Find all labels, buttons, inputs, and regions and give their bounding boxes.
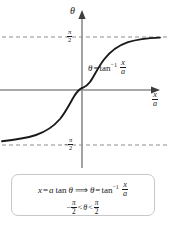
formula-line-1: x=atanθ⟹θ=tan−1 x a [12, 182, 154, 200]
upper-tick-label: π 2 [67, 30, 72, 44]
formula-a: a [49, 185, 54, 195]
inequality-right-denominator: 2 [94, 208, 100, 215]
vertical-axis-label: θ [70, 6, 75, 16]
curve-equation-arg-denominator: a [120, 68, 126, 76]
formula-tan: tan [54, 185, 67, 195]
curve-equation-equals: = [92, 63, 99, 73]
horizontal-axis-label: x a [152, 92, 158, 110]
curve-equation-label: θ=tan−1 x a [88, 60, 126, 78]
inequality-left-denominator: 2 [71, 208, 77, 215]
arctangent-figure: θ x a π 2 − π 2 θ=tan−1 x a x=atanθ⟹θ=ta… [0, 0, 169, 225]
formula-implies-arrow: ⟹ [73, 184, 90, 195]
formula-equals-1: = [42, 185, 49, 195]
formula-line-2: − π 2 <θ< π 2 [12, 200, 154, 216]
vertical-axis-arrowhead [78, 10, 85, 19]
lower-tick-denominator: 2 [68, 145, 73, 151]
upper-tick-denominator: 2 [67, 37, 72, 43]
lower-tick-label: − π 2 [64, 138, 73, 152]
formula-arg-denominator: a [122, 190, 128, 198]
horizontal-axis-label-denominator: a [152, 100, 158, 108]
formula-arctan: tan [101, 185, 112, 195]
formula-box: x=atanθ⟹θ=tan−1 x a − π 2 <θ< π 2 [11, 174, 155, 216]
formula-exponent: −1 [112, 184, 119, 190]
curve-equation-exponent: −1 [111, 62, 118, 68]
curve-equation-function: tan [100, 63, 111, 73]
